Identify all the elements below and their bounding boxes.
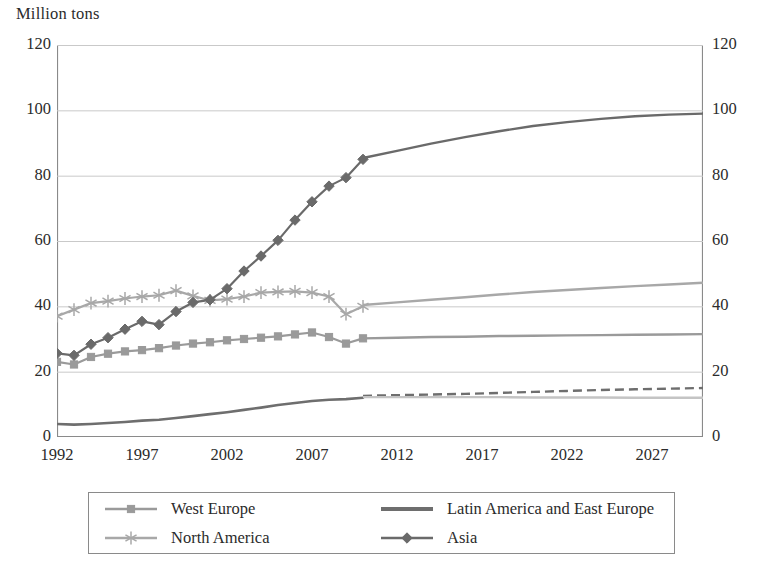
x-tick-label: 1992 <box>41 445 74 465</box>
marker-diamond <box>57 348 62 358</box>
marker-square <box>138 347 145 354</box>
y-tick-label-left: 100 <box>26 99 51 119</box>
y-tick-label-right: 40 <box>712 295 729 315</box>
legend-marker-diamond-icon <box>379 528 435 548</box>
marker-square <box>325 333 332 340</box>
marker-square <box>127 505 134 512</box>
marker-square <box>274 333 281 340</box>
x-tick-label: 1997 <box>126 445 159 465</box>
plot-svg <box>57 45 703 437</box>
marker-square <box>206 339 213 346</box>
legend-item[interactable]: Latin America and East Europe <box>379 495 654 523</box>
y-tick-label-left: 20 <box>35 361 52 381</box>
series-west-europe <box>57 329 703 368</box>
marker-square <box>342 340 349 347</box>
series-secondary-low-line <box>363 397 703 398</box>
legend-marker-asterisk-icon <box>103 528 159 548</box>
y-tick-label-right: 0 <box>712 426 720 446</box>
y-tick-label-right: 120 <box>712 34 737 54</box>
y-tick-label-left: 60 <box>35 230 52 250</box>
marker-square <box>121 348 128 355</box>
marker-diamond <box>137 316 147 326</box>
plot-area <box>57 45 703 437</box>
x-tick-label: 2022 <box>551 445 584 465</box>
marker-square <box>155 345 162 352</box>
y-tick-label-left: 120 <box>26 34 51 54</box>
x-tick-label: 2012 <box>381 445 414 465</box>
marker-square <box>308 329 315 336</box>
marker-square <box>189 340 196 347</box>
series-north-america <box>57 283 703 323</box>
legend-item[interactable]: North America <box>103 524 270 552</box>
series-line-forecast <box>363 397 703 398</box>
y-tick-label-right: 60 <box>712 230 729 250</box>
y-tick-label-right: 100 <box>712 99 737 119</box>
marker-square <box>70 361 77 368</box>
series-line-forecast <box>363 388 703 396</box>
y-tick-label-right: 20 <box>712 361 729 381</box>
marker-square <box>257 334 264 341</box>
series-line-forecast <box>363 334 703 338</box>
legend-item-label: West Europe <box>171 499 255 519</box>
x-tick-label: 2017 <box>466 445 499 465</box>
y-tick-label-left: 80 <box>35 165 52 185</box>
legend-item[interactable]: Asia <box>379 524 477 552</box>
marker-square <box>87 353 94 360</box>
series-line-forecast <box>363 114 703 158</box>
y-tick-label-left: 40 <box>35 295 52 315</box>
marker-square <box>57 358 61 365</box>
series-line-history <box>57 159 363 355</box>
legend-item-label: North America <box>171 528 270 548</box>
series-asia <box>57 114 703 361</box>
marker-square <box>172 342 179 349</box>
legend: West EuropeLatin America and East Europe… <box>88 492 675 554</box>
marker-square <box>240 335 247 342</box>
legend-item-label: Latin America and East Europe <box>447 499 654 519</box>
y-tick-label-left: 0 <box>43 426 51 446</box>
legend-item-label: Asia <box>447 528 477 548</box>
marker-square <box>291 331 298 338</box>
legend-marker-line-icon <box>379 499 435 519</box>
marker-diamond <box>120 324 130 334</box>
x-tick-label: 2027 <box>636 445 669 465</box>
legend-item[interactable]: West Europe <box>103 495 255 523</box>
series-line-forecast <box>363 283 703 305</box>
x-tick-label: 2007 <box>296 445 329 465</box>
marker-square <box>223 337 230 344</box>
y-tick-label-right: 80 <box>712 165 729 185</box>
marker-diamond <box>402 533 412 543</box>
marker-diamond <box>103 332 113 342</box>
series-latin-america-and-east-europe <box>57 388 703 425</box>
y-axis-title: Million tons <box>16 4 100 24</box>
x-tick-label: 2002 <box>211 445 244 465</box>
series-line-history <box>57 398 363 425</box>
chart-figure: Million tons 020406080100120 02040608010… <box>0 0 772 577</box>
legend-marker-square-icon <box>103 499 159 519</box>
marker-square <box>104 350 111 357</box>
